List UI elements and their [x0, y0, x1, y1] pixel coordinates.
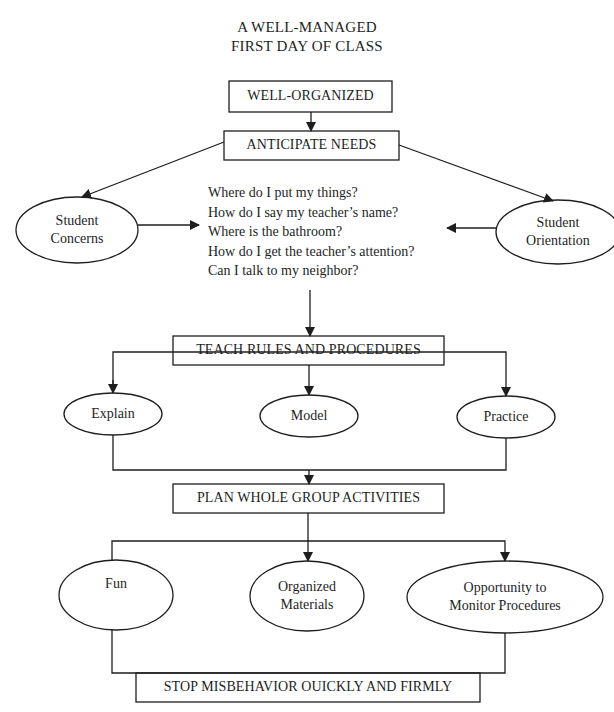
- stop-arrow-layer: [0, 0, 614, 712]
